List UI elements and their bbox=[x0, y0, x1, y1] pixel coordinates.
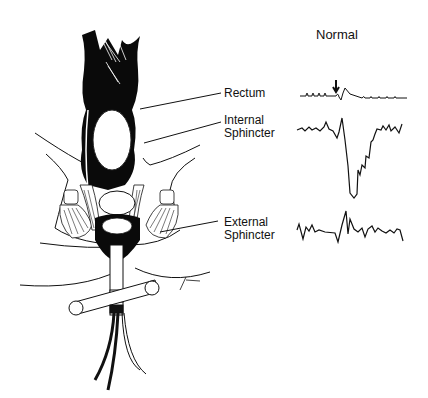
artist-signature bbox=[180, 277, 200, 290]
label-external-sphincter: External Sphincter bbox=[224, 216, 275, 242]
balloon bbox=[93, 110, 131, 170]
label-internal-sphincter: Internal Sphincter bbox=[224, 114, 275, 140]
rectum-shape bbox=[81, 30, 140, 190]
trace-external-sphincter bbox=[297, 211, 403, 242]
leader-lines bbox=[140, 93, 221, 232]
label-internal-line2: Sphincter bbox=[224, 127, 275, 140]
trace-rectum bbox=[300, 88, 407, 100]
catheter bbox=[69, 245, 159, 315]
trace-internal-sphincter bbox=[297, 118, 402, 198]
label-external-line2: Sphincter bbox=[224, 229, 275, 242]
title-normal: Normal bbox=[316, 28, 358, 41]
catheter-tubes bbox=[95, 313, 146, 390]
label-rectum: Rectum bbox=[224, 87, 265, 100]
stimulus-arrow-icon bbox=[333, 80, 339, 92]
anatomy-illustration bbox=[0, 0, 428, 398]
